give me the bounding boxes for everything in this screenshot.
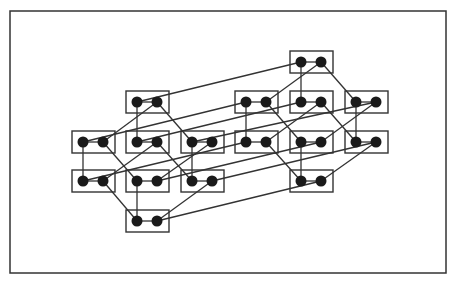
node-r-l2-a [296, 137, 307, 148]
node-r-l3-b [371, 137, 382, 148]
node-l-l2-b [152, 176, 163, 187]
node-r-bot-b [316, 176, 327, 187]
node-l-l3-a [187, 176, 198, 187]
node-r-m2-a [296, 97, 307, 108]
node-l-bot-b [152, 216, 163, 227]
node-l-m1-a [78, 137, 89, 148]
node-r-m3-a [351, 97, 362, 108]
node-r-l2-b [316, 137, 327, 148]
edge [137, 62, 301, 102]
edge [103, 142, 157, 181]
box-layer [72, 51, 388, 232]
node-l-l2-a [132, 176, 143, 187]
node-l-bot-a [132, 216, 143, 227]
node-l-m3-a [187, 137, 198, 148]
node-r-m1-a [241, 97, 252, 108]
edge [321, 142, 376, 181]
node-l-l3-b [207, 176, 218, 187]
edge [103, 181, 137, 221]
node-l-m1-b [98, 137, 109, 148]
node-l-m3-b [207, 137, 218, 148]
edge [157, 181, 212, 221]
edge [321, 62, 356, 102]
node-layer [78, 57, 382, 227]
node-r-m3-b [371, 97, 382, 108]
node-l-top-a [132, 97, 143, 108]
hypercube-diagram [0, 0, 456, 284]
node-l-m2-b [152, 137, 163, 148]
node-r-l1-a [241, 137, 252, 148]
edge [103, 102, 157, 142]
node-l-top-b [152, 97, 163, 108]
node-r-top-a [296, 57, 307, 68]
node-r-bot-a [296, 176, 307, 187]
node-l-m2-a [132, 137, 143, 148]
edge-layer [83, 62, 376, 221]
node-l-l1-b [98, 176, 109, 187]
node-r-m2-b [316, 97, 327, 108]
node-r-top-b [316, 57, 327, 68]
node-r-l3-a [351, 137, 362, 148]
node-l-l1-a [78, 176, 89, 187]
node-r-m1-b [261, 97, 272, 108]
node-r-l1-b [261, 137, 272, 148]
